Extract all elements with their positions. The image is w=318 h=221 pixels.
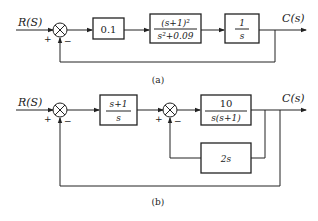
- plant-numerator-a: (s+1)²: [161, 18, 190, 28]
- controller-numerator: s+1: [110, 99, 128, 109]
- minus-sign-b2: −: [174, 116, 182, 126]
- plus-sign-a: +: [44, 34, 52, 44]
- gain-value: 0.1: [101, 24, 117, 35]
- plant-denominator-a: s²+0.09: [158, 31, 194, 41]
- output-label-a: C(s): [282, 12, 305, 25]
- plant-numerator-b: 10: [220, 98, 233, 109]
- output-label-b: C(s): [282, 92, 305, 105]
- integrator-denominator: s: [240, 31, 245, 41]
- minus-sign-b1: −: [64, 116, 72, 126]
- input-label-b: R(S): [17, 96, 42, 109]
- integrator-numerator: 1: [239, 18, 245, 28]
- input-label-a: R(S): [17, 16, 42, 29]
- controller-denominator: s: [116, 113, 121, 123]
- caption-a: (a): [152, 75, 164, 85]
- plus-sign-b1: +: [44, 114, 52, 124]
- summing-junction-b1: [53, 103, 67, 117]
- block-diagrams: R(S) + − 0.1 (s+1)² s²+0.09 1 s C(s) (a)…: [0, 0, 318, 221]
- plus-sign-b2: +: [155, 114, 163, 124]
- inner-feedback-path-in: [251, 110, 265, 158]
- summing-junction-a: [53, 23, 67, 37]
- summing-junction-b2: [163, 103, 177, 117]
- diagram-a: R(S) + − 0.1 (s+1)² s²+0.09 1 s C(s) (a): [16, 12, 306, 85]
- feedback-block-value: 2s: [220, 154, 232, 164]
- caption-b: (b): [152, 197, 165, 207]
- diagram-b: R(S) + − s+1 s + − 10 s(s+1) C(s) 2s: [16, 92, 306, 207]
- minus-sign-a: −: [64, 36, 72, 46]
- plant-denominator-b: s(s+1): [211, 113, 241, 123]
